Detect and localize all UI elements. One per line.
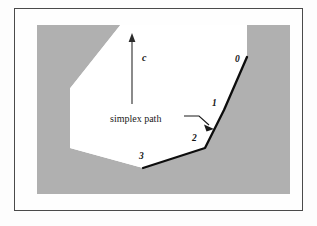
vertex-label-0: 0 [235, 55, 240, 65]
simplex-path-caption: simplex path [110, 114, 161, 124]
vertex-label-3: 3 [139, 152, 144, 162]
objective-vector-label: c [142, 53, 146, 63]
vertex-label-1: 1 [212, 99, 217, 109]
vertex-label-2: 2 [192, 134, 197, 144]
upper-right-infeasible-block [247, 25, 290, 57]
figure-root: c simplex path 0 1 2 3 [0, 0, 317, 226]
